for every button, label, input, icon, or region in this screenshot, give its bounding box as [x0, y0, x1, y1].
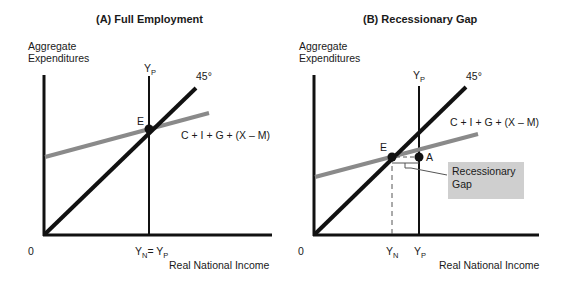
panel-b-x-axis-label: Real National Income	[439, 259, 539, 271]
panel-a-point-e-label: E	[137, 115, 144, 127]
panel-a-x-tick-yn-eq-yp: YN= YP	[135, 245, 168, 259]
panel-b-origin-label: 0	[298, 245, 304, 257]
panel-a-y-axis-label-line2: Expenditures	[28, 52, 89, 64]
panel-b-gap-leader	[405, 163, 447, 175]
panel-a-yp-label: YP	[144, 62, 156, 76]
panel-b-point-a	[415, 153, 424, 162]
panel-b-point-a-label: A	[426, 151, 433, 163]
diagram-canvas	[0, 0, 562, 288]
panel-b-point-e-label: E	[380, 141, 387, 153]
panel-b-x-tick-yp: YP	[414, 245, 426, 259]
panel-b-y-axis-label-line2: Expenditures	[299, 52, 360, 64]
panel-a-graph	[43, 75, 272, 236]
panel-a-45-label: 45°	[196, 70, 212, 82]
panel-b-y-axis-label-line1: Aggregate	[299, 40, 347, 52]
panel-a-origin-label: 0	[28, 245, 34, 257]
panel-a-x-axis-label: Real National Income	[169, 259, 269, 271]
recessionary-gap-callout: Recessionary Gap	[448, 162, 524, 199]
panel-b-point-e	[388, 153, 397, 162]
panel-a-ae-label: C + I + G + (X – M)	[181, 129, 270, 141]
panel-b-45-label: 45°	[466, 70, 482, 82]
panel-b-title: (B) Recessionary Gap	[363, 13, 477, 25]
panel-b-ae-label: C + I + G + (X – M)	[450, 116, 539, 128]
panel-a-title: (A) Full Employment	[96, 13, 203, 25]
panel-b-yp-label: YP	[413, 69, 425, 83]
panel-b-x-tick-yn: YN	[386, 245, 398, 259]
panel-a-y-axis-label-line1: Aggregate	[28, 40, 76, 52]
panel-a-45-line	[45, 88, 196, 234]
gap-label-line2: Gap	[452, 178, 524, 191]
panel-a-point-e	[145, 125, 154, 134]
gap-label-line1: Recessionary	[452, 165, 524, 178]
